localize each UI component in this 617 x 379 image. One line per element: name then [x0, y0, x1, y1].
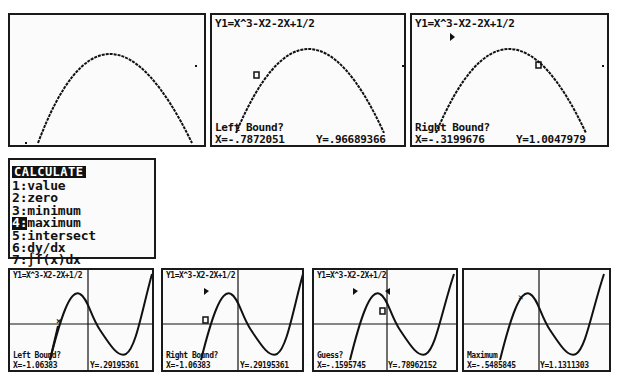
- x-value: X=-.1595745: [317, 361, 366, 370]
- trace-cursor-icon: ×: [56, 316, 61, 326]
- y-value: Y=.29195361: [240, 361, 289, 370]
- menu-title: CALCULATE: [12, 166, 86, 178]
- graph-screen-bottom-left-bound: × Y1=X^3-X2-2X+1/2 Left Bound? X=-1.0638…: [8, 268, 154, 372]
- x-value: X=-.3199676: [415, 133, 485, 146]
- graph-screen-left-bound: Y1=X^3-X2-2X+1/2 Left Bound? X=-.7872051…: [210, 13, 406, 147]
- x-value: X=-1.06383: [13, 361, 57, 370]
- equation-label: Y1=X^3-X2-2X+1/2: [415, 17, 515, 30]
- prompt-label: Guess?: [317, 351, 343, 360]
- equation-label: Y1=X^3-X2-2X+1/2: [13, 271, 82, 280]
- equation-label: Y1=X^3-X2-2X+1/2: [215, 17, 315, 30]
- parabola-graph: [10, 15, 206, 147]
- y-value: Y=1.1311303: [540, 361, 589, 370]
- graph-screen-bottom-maximum: ✕ Maximum X=-.5485845 Y=1.1311303: [462, 268, 611, 372]
- trace-cursor-icon: [254, 72, 259, 78]
- y-value: Y=.78962152: [388, 361, 437, 370]
- left-bound-marker-icon: [450, 33, 455, 41]
- menu-item-integral[interactable]: 7:∫f(x)dx: [12, 254, 152, 266]
- x-value: X=-.7872051: [215, 133, 285, 146]
- graph-screen-bottom-right-bound: Y1=X^3-X2-2X+1/2 Right Bound? X=-1.06383…: [161, 268, 304, 372]
- prompt-label: Right Bound?: [166, 351, 218, 360]
- y-value: Y=.96689366: [316, 133, 386, 146]
- x-value: X=-1.06383: [166, 361, 210, 370]
- menu-item-label: ∫f(x)dx: [27, 252, 80, 267]
- calculate-menu: CALCULATE 1:value 2:zero 3:minimum 4:max…: [8, 158, 156, 259]
- prompt-label: Maximum: [467, 351, 497, 360]
- equation-label: Y1=X^3-X2-2X+1/2: [166, 271, 235, 280]
- equation-label: Y1=X^3-X2-2X+1/2: [317, 271, 386, 280]
- left-bound-marker-icon: [353, 288, 358, 295]
- x-value: X=-.5485845: [467, 361, 516, 370]
- y-value: Y=1.0047979: [516, 133, 586, 146]
- trace-cursor-icon: [380, 308, 385, 314]
- left-bound-marker-icon: [204, 288, 209, 295]
- menu-item-number: 7:: [12, 254, 27, 266]
- maximum-cursor-icon: ✕: [518, 292, 523, 302]
- y-value: Y=.29195361: [90, 361, 139, 370]
- trace-cursor-icon: [203, 317, 208, 323]
- graph-screen-right-bound: Y1=X^3-X2-2X+1/2 Right Bound? X=-.319967…: [410, 13, 609, 147]
- prompt-label: Left Bound?: [13, 351, 60, 360]
- graph-screen-zoomed: [8, 13, 206, 147]
- graph-screen-bottom-guess: Y1=X^3-X2-2X+1/2 Guess? X=-.1595745 Y=.7…: [312, 268, 458, 372]
